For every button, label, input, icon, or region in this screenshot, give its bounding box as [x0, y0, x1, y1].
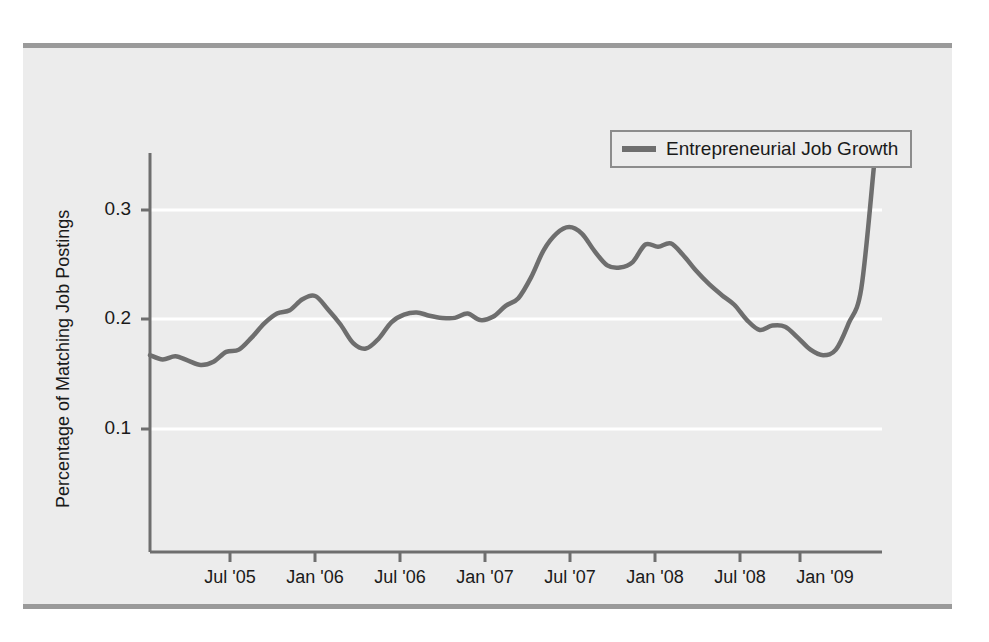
legend-line-swatch	[622, 146, 656, 152]
axis-lines	[150, 153, 882, 552]
x-tick-label-jan-09: Jan '09	[780, 567, 870, 588]
chart-legend: Entrepreneurial Job Growth	[610, 130, 912, 168]
gridlines	[150, 210, 882, 429]
x-tick-label-jul-08: Jul '08	[695, 567, 785, 588]
y-tick-label-0-2: 0.2	[71, 307, 131, 329]
x-tick-label-jul-07: Jul '07	[525, 567, 615, 588]
y-axis-title: Percentage of Matching Job Postings	[53, 210, 74, 508]
x-tick-label-jan-07: Jan '07	[440, 567, 530, 588]
chart-panel: Percentage of Matching Job Postings 0.3 …	[23, 48, 952, 604]
x-tick-label-jan-06: Jan '06	[270, 567, 360, 588]
series-line-entrepreneurial-job-growth	[150, 166, 874, 365]
x-tick-label-jan-08: Jan '08	[610, 567, 700, 588]
x-tick-label-jul-06: Jul '06	[355, 567, 445, 588]
bottom-divider-rule	[23, 604, 952, 609]
x-tick-label-jul-05: Jul '05	[185, 567, 275, 588]
y-tick-label-0-1: 0.1	[71, 417, 131, 439]
y-tick-label-0-3: 0.3	[71, 198, 131, 220]
chart-figure: Percentage of Matching Job Postings 0.3 …	[0, 0, 989, 642]
legend-label-entrepreneurial-job-growth: Entrepreneurial Job Growth	[666, 138, 898, 160]
